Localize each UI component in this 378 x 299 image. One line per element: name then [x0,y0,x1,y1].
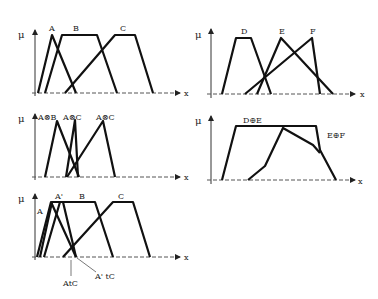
panel-2: μ x D E F [195,27,365,99]
d-plus-e-label: D⊕E [243,116,262,125]
panel-5: μ x A A' B C AtC A' tC [18,192,189,288]
set-b-label: B [79,192,85,201]
set-f-curve [245,38,320,94]
x-axis-label: x [358,177,363,186]
a-times-b-label: A⊗B [37,113,56,122]
set-c-label: C [120,24,126,33]
set-c-label: C [118,192,124,201]
set-a-prime-label: A' [54,192,63,201]
y-axis-label: μ [18,113,25,124]
a-t-c-annotation: AtC [62,279,78,288]
leader-line-2 [77,258,96,272]
set-c-curve [63,202,150,257]
y-axis-label: μ [195,29,202,40]
panel-1: μ x A B C [18,24,189,98]
set-d-label: D [241,27,247,36]
x-axis-label: x [184,89,189,98]
y-axis-label: μ [18,29,25,40]
set-a-curve [38,35,76,93]
set-f-label: F [310,27,316,36]
set-e-label: E [279,27,285,36]
a-times-c-label-1: A⊗C [62,113,82,122]
y-axis-label: μ [18,193,25,204]
set-a-label: A [36,207,43,216]
set-a-label: A [48,24,55,33]
e-plus-f-label: E⊕F [327,131,346,140]
x-axis-label: x [360,90,365,99]
a-prime-t-c-annotation: A' tC [94,272,115,281]
set-c-curve [65,35,153,93]
panel-3: μ x A⊗B A⊗C A⊗C [18,113,189,182]
set-d-curve [222,38,271,94]
e-plus-f-curve [248,128,320,180]
panel-4: μ x D⊕E E⊕F [195,115,363,186]
a-times-c-label-2: A⊗C [95,113,115,122]
x-axis-label: x [184,173,189,182]
x-axis-label: x [184,253,189,262]
y-axis-label: μ [195,115,202,126]
set-b-label: B [73,24,79,33]
fuzzy-sets-diagram: μ x A B C μ x D E F μ x A⊗B A⊗C A⊗C [0,0,378,299]
